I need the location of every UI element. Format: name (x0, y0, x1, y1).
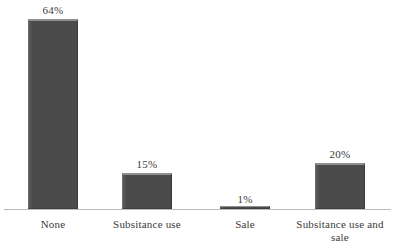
category-label-subsitance-use: Subsitance use (107, 218, 187, 231)
bar-none (28, 19, 78, 209)
plot-area: 64% 15% 1% 20% (0, 0, 395, 211)
bar-value-label-subsitance-use: 15% (112, 158, 182, 171)
bar-subsitance-use (122, 173, 172, 209)
bar-chart: 64% 15% 1% 20% None Subsitance use Sale … (0, 0, 395, 251)
category-label-subsitance-use-and-sale-line1: Subsitance use and (290, 218, 390, 231)
bar-subsitance-use-and-sale (315, 163, 365, 209)
category-label-subsitance-use-and-sale-line2: sale (290, 231, 390, 244)
category-label-sale: Sale (205, 218, 285, 231)
bar-value-label-subsitance-use-and-sale: 20% (305, 148, 375, 161)
category-label-none: None (13, 218, 93, 231)
bar-value-label-sale: 1% (210, 193, 280, 206)
bar-value-label-none: 64% (18, 4, 88, 17)
x-axis-line (4, 209, 391, 210)
